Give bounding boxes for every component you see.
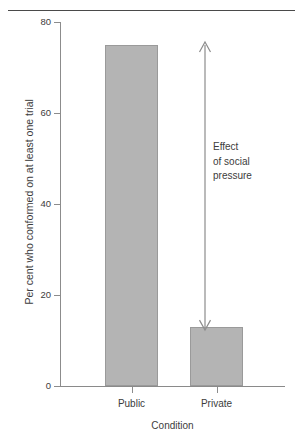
- bar-public[interactable]: [105, 45, 158, 386]
- x-axis-title: Condition: [60, 420, 285, 431]
- y-axis-title: Per cent who conformed on at least one t…: [24, 32, 36, 372]
- effect-annotation-line-3: pressure: [213, 169, 291, 184]
- y-tick-label-40: 40: [40, 199, 51, 209]
- effect-annotation-line-1: Effect: [213, 140, 291, 155]
- y-tick-mark-80: [54, 22, 60, 23]
- y-tick-label-80: 80: [40, 17, 51, 27]
- bar-private[interactable]: [190, 327, 243, 386]
- figure-container: 80 60 40 20 0 Public Private Condition P…: [0, 0, 295, 445]
- y-tick-mark-20: [54, 295, 60, 296]
- y-tick-mark-60: [54, 113, 60, 114]
- y-axis-line: [60, 22, 61, 387]
- x-tick-mark-public: [132, 387, 133, 393]
- effect-annotation-text: Effect of social pressure: [213, 140, 291, 184]
- y-tick-label-0: 0: [46, 381, 51, 391]
- top-divider-rule: [8, 10, 295, 11]
- y-tick-label-60: 60: [40, 108, 51, 118]
- x-tick-label-public: Public: [87, 398, 177, 409]
- x-axis-line: [60, 386, 285, 387]
- y-tick-mark-40: [54, 204, 60, 205]
- effect-arrow-icon: [186, 36, 226, 336]
- x-tick-mark-private: [217, 387, 218, 393]
- effect-annotation-line-2: of social: [213, 155, 291, 170]
- y-tick-mark-0: [54, 386, 60, 387]
- y-tick-label-20: 20: [40, 290, 51, 300]
- x-tick-label-private: Private: [172, 398, 262, 409]
